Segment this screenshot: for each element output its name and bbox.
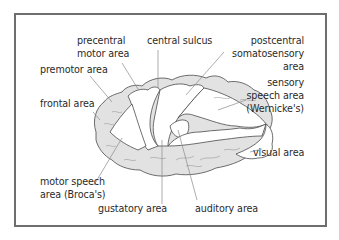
label-sensory-speech-area: sensory speech area (Wernicke's)	[226, 76, 304, 115]
label-motor-speech-area: motor speech area (Broca's)	[40, 175, 106, 201]
label-auditory-area: auditory area	[195, 202, 258, 215]
label-line: precentral	[77, 34, 129, 47]
label-line: central sulcus	[147, 34, 212, 47]
label-line: speech area	[226, 89, 304, 102]
label-line: somatosensory	[226, 47, 304, 60]
label-central-sulcus: central sulcus	[147, 34, 212, 47]
label-line: gustatory area	[98, 202, 167, 215]
label-line: postcentral	[226, 34, 304, 47]
label-line: motor area	[77, 47, 129, 60]
label-line: sensory	[226, 76, 304, 89]
label-line: motor speech	[40, 175, 106, 188]
label-premotor-area: premotor area	[40, 63, 108, 76]
label-line: frontal area	[40, 97, 95, 110]
label-line: area (Broca's)	[40, 188, 106, 201]
label-line: (Wernicke's)	[226, 102, 304, 115]
label-line: auditory area	[195, 202, 258, 215]
label-line: premotor area	[40, 63, 108, 76]
label-line: visual area	[253, 146, 304, 159]
leader-precentral	[122, 63, 138, 89]
label-visual-area: visual area	[253, 146, 304, 159]
label-line: area	[226, 60, 304, 73]
label-frontal-area: frontal area	[40, 97, 95, 110]
label-gustatory-area: gustatory area	[98, 202, 167, 215]
label-precentral-motor-area: precentral motor area	[77, 34, 129, 60]
label-postcentral-somatosensory-area: postcentral somatosensory area	[226, 34, 304, 73]
